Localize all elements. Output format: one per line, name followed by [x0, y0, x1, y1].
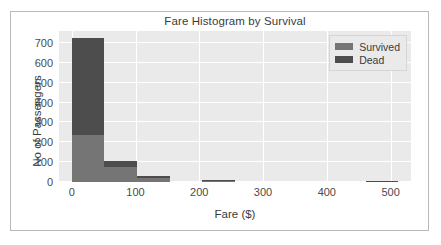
x-tick-label: 100	[116, 186, 156, 198]
legend-swatch-dead	[335, 56, 353, 63]
gridline-horizontal	[59, 82, 411, 83]
bar-dead	[366, 181, 399, 182]
y-tick-label: 400	[19, 97, 53, 109]
bar-dead	[104, 161, 137, 168]
y-tick-label: 500	[19, 77, 53, 89]
y-tick-label: 600	[19, 57, 53, 69]
bar-dead	[202, 180, 235, 181]
bar-dead	[72, 38, 105, 135]
legend-item: Dead	[335, 53, 400, 66]
gridline-horizontal	[59, 141, 411, 142]
x-tick-label: 400	[307, 186, 347, 198]
plot-area: Survived Dead	[59, 31, 411, 182]
x-tick-label: 0	[52, 186, 92, 198]
y-tick-label: 100	[19, 156, 53, 168]
bar-dead	[137, 176, 170, 178]
gridline-vertical	[263, 31, 264, 182]
gridline-vertical	[136, 31, 137, 182]
gridline-horizontal	[59, 102, 411, 103]
bar-survived	[104, 167, 137, 182]
gridline-horizontal	[59, 121, 411, 122]
y-tick-label: 300	[19, 116, 53, 128]
y-tick-label: 200	[19, 136, 53, 148]
x-tick-label: 300	[243, 186, 283, 198]
bar-survived	[72, 135, 105, 182]
y-tick-label: 700	[19, 37, 53, 49]
legend-label-dead: Dead	[359, 54, 384, 66]
legend-swatch-survived	[335, 43, 353, 50]
legend-item: Survived	[335, 40, 400, 53]
y-tick-label: 0	[19, 176, 53, 188]
x-tick-label: 500	[371, 186, 411, 198]
gridline-vertical	[327, 31, 328, 182]
gridline-vertical	[199, 31, 200, 182]
x-tick-label: 200	[179, 186, 219, 198]
legend-label-survived: Survived	[359, 41, 400, 53]
chart-legend: Survived Dead	[329, 35, 407, 71]
chart-title: Fare Histogram by Survival	[59, 15, 411, 27]
bar-survived	[137, 178, 170, 182]
figure-panel: Fare Histogram by Survival No of Passeng…	[10, 11, 429, 231]
x-axis-label: Fare ($)	[59, 208, 411, 220]
